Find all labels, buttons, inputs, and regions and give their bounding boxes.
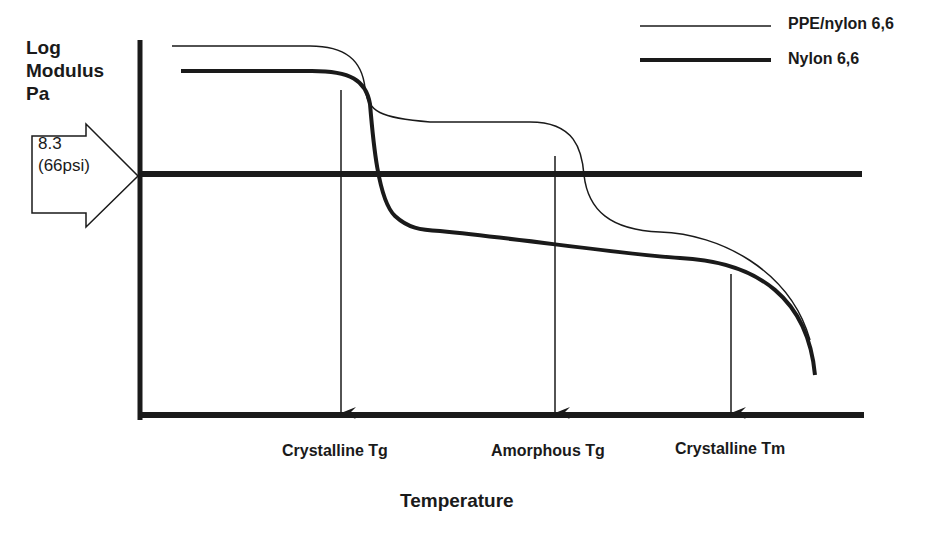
series-nylon-curve <box>181 71 815 375</box>
y-axis-label-line-2: Modulus <box>26 59 104 82</box>
marker-label-amorphous-tg: Amorphous Tg <box>491 442 605 460</box>
series-ppe-nylon-curve <box>172 46 810 340</box>
legend-label-nylon: Nylon 6,6 <box>788 50 859 68</box>
marker-label-crystalline-tg: Crystalline Tg <box>282 442 388 460</box>
y-axis-label-line-3: Pa <box>26 82 104 105</box>
reference-unit: (66psi) <box>38 155 90 177</box>
marker-label-crystalline-tm: Crystalline Tm <box>675 440 785 458</box>
legend-label-ppe-nylon: PPE/nylon 6,6 <box>788 15 894 33</box>
y-axis-label-line-1: Log <box>26 36 104 59</box>
x-axis-label: Temperature <box>400 490 514 512</box>
modulus-temperature-diagram <box>0 0 939 533</box>
y-axis-label: Log Modulus Pa <box>26 36 104 105</box>
reference-value: 8.3 <box>38 133 90 155</box>
reference-label: 8.3 (66psi) <box>38 133 90 177</box>
